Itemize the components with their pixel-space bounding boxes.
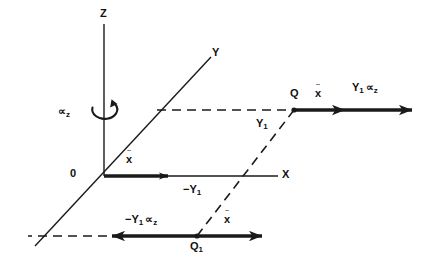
- xddot-q1-accent: ¨: [226, 209, 229, 218]
- axis-label-z: Z: [100, 8, 107, 19]
- point-label-q1-subscript: 1: [199, 245, 203, 254]
- y1-alpha-z-pos-subscript: 1: [359, 86, 363, 95]
- xddot-q-accent: ¨: [317, 83, 320, 92]
- dashed-segment-y1: [197, 110, 294, 236]
- segment-y1-neg-base: −Y: [183, 183, 197, 195]
- y1-alpha-z-neg-symbol-subscript: z: [153, 218, 157, 227]
- segment-label-y1-positive: Y1: [256, 118, 268, 129]
- point-label-origin: 0: [70, 168, 76, 179]
- xddot-origin-accent: ¨: [128, 149, 131, 158]
- rotation-arrow-icon: [92, 99, 117, 119]
- y1-alpha-z-neg-main: Y: [131, 213, 138, 225]
- rotation-rate-label: ∝z: [58, 106, 70, 117]
- y-axis: [35, 57, 211, 246]
- axis-label-x: X: [282, 169, 289, 180]
- vector-label-y1-alpha-z-positive: Y1∝z: [352, 82, 378, 93]
- axis-label-y: Y: [212, 47, 219, 58]
- rotation-rate-subscript: z: [66, 110, 70, 119]
- vector-label-xddot-q: ¨x: [315, 88, 321, 99]
- point-label-q1: Q1: [190, 241, 203, 252]
- y1-alpha-z-pos-symbol-subscript: z: [374, 86, 378, 95]
- point-marker-q: [291, 107, 296, 112]
- vector-label-y1-alpha-z-negative: −Y1∝z: [125, 214, 157, 225]
- point-label-q: Q: [290, 88, 299, 99]
- diagram-canvas: [0, 0, 426, 273]
- rotation-rate-symbol: ∝: [58, 105, 66, 117]
- point-marker-q1: [194, 233, 199, 238]
- segment-y1-pos-subscript: 1: [263, 122, 267, 131]
- vector-label-xddot-origin: ¨x: [126, 154, 132, 165]
- vector-label-xddot-q1: ¨x: [224, 214, 230, 225]
- y1-alpha-z-pos-symbol: ∝: [366, 81, 374, 93]
- segment-label-y1-negative: −Y1: [183, 184, 201, 195]
- point-label-q1-base: Q: [190, 240, 199, 252]
- y1-alpha-z-neg-subscript: 1: [139, 218, 143, 227]
- segment-y1-neg-subscript: 1: [197, 188, 201, 197]
- coordinate-system-diagram: Z Y X 0 Q Q1 ∝z ¨x ¨x ¨x Y1∝z −Y1∝z Y1 −…: [0, 0, 426, 273]
